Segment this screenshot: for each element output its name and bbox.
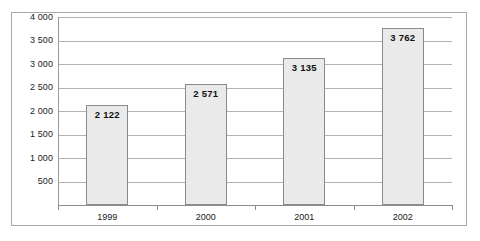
x-axis-category-label: 1999: [58, 212, 157, 222]
y-axis-tick-label: 2 000: [12, 107, 53, 116]
x-axis-category-label: 2002: [354, 212, 453, 222]
y-axis-tick-label: 500: [12, 177, 53, 186]
chart-frame: 5001 0001 5002 0002 5003 0003 5004 000 2…: [11, 12, 467, 226]
bar[interactable]: 3 135: [283, 58, 325, 205]
y-axis-tick-label: 4 000: [12, 13, 53, 22]
bar[interactable]: 2 571: [185, 84, 227, 205]
bar-value-label: 2 122: [87, 109, 127, 120]
x-axis-tick: [157, 205, 158, 210]
gridline: [59, 17, 452, 18]
x-axis-tick: [452, 205, 453, 210]
x-axis-category-label: 2001: [255, 212, 354, 222]
x-axis-tick: [354, 205, 355, 210]
x-axis-category-label: 2000: [157, 212, 256, 222]
y-axis-tick-label: 3 000: [12, 60, 53, 69]
y-axis-tick-label: 2 500: [12, 83, 53, 92]
x-axis-tick: [58, 205, 59, 210]
y-axis-tick-label: 1 500: [12, 130, 53, 139]
bar-value-label: 3 135: [284, 62, 324, 73]
bar-value-label: 3 762: [383, 32, 423, 43]
plot-wrapper: 5001 0001 5002 0002 5003 0003 5004 000 2…: [12, 13, 466, 225]
y-axis-tick-labels: 5001 0001 5002 0002 5003 0003 5004 000: [12, 13, 56, 205]
bar[interactable]: 3 762: [382, 28, 424, 205]
y-axis-tick-label: 1 000: [12, 154, 53, 163]
x-axis-tick: [255, 205, 256, 210]
bar[interactable]: 2 122: [86, 105, 128, 205]
y-axis-tick-label: 3 500: [12, 36, 53, 45]
bar-value-label: 2 571: [186, 88, 226, 99]
